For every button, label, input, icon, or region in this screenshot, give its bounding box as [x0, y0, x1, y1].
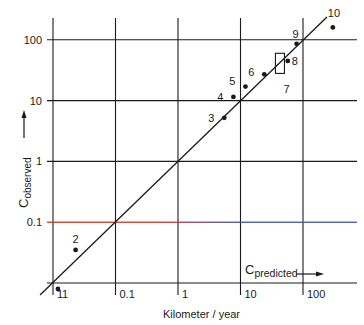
scatter-chart: 10.1110100 0.1110100 12345678910 Cobserv… [0, 0, 364, 325]
data-points: 12345678910 [56, 7, 341, 300]
x-tick-label: 10 [245, 288, 257, 300]
svg-text:3: 3 [208, 112, 214, 124]
svg-text:9: 9 [293, 28, 299, 40]
y-axis-arrow-icon [22, 110, 27, 138]
y-axis-title: Cobserved [16, 157, 33, 208]
svg-text:8: 8 [292, 55, 298, 67]
svg-text:Cpredicted: Cpredicted [245, 262, 298, 279]
x-axis-ticks: 10.1110100 [57, 288, 325, 300]
data-point-2: 2 [73, 233, 79, 252]
svg-text:6: 6 [248, 66, 254, 78]
x-axis-title: Kilometer / year [163, 308, 240, 320]
x-tick-label: 0.1 [120, 288, 135, 300]
data-point-8: 8 [285, 55, 298, 67]
svg-text:2: 2 [73, 233, 79, 245]
threshold-line [47, 222, 357, 223]
x-tick-label: 1 [182, 288, 188, 300]
x-axis-predicted-label: Cpredicted [245, 262, 298, 279]
svg-text:5: 5 [229, 75, 235, 87]
data-point-3: 3 [208, 112, 227, 124]
x-axis-arrow-icon [296, 272, 324, 277]
data-point-10: 10 [328, 7, 340, 29]
svg-text:1: 1 [62, 288, 68, 300]
y-tick-label: 100 [24, 34, 42, 46]
y-tick-label: 10 [30, 95, 42, 107]
svg-text:10: 10 [328, 7, 340, 19]
svg-text:Cobserved: Cobserved [16, 157, 33, 208]
data-point-6: 6 [248, 66, 267, 78]
data-point-9: 9 [293, 28, 299, 46]
y-tick-label: 1 [36, 155, 42, 167]
data-point-5: 5 [229, 75, 248, 89]
svg-text:4: 4 [217, 91, 223, 103]
grid-lines [47, 18, 357, 295]
y-tick-label: 0.1 [27, 216, 42, 228]
svg-text:7: 7 [283, 83, 289, 95]
x-tick-label: 100 [307, 288, 325, 300]
